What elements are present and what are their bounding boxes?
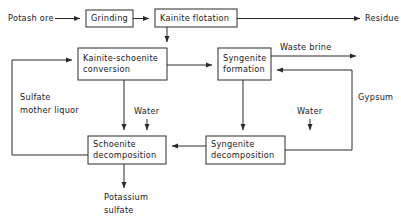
stream-label-sulfate_mother_liquor_1: Sulfate xyxy=(20,92,51,102)
stream-label-gypsum: Gypsum xyxy=(358,92,393,102)
process-flow-diagram: GrindingKainite flotationKainite-schoeni… xyxy=(0,0,401,224)
box-label-schoenite_decomposition: Schoenite xyxy=(93,139,136,149)
stream-labels-layer: Potash oreResidueWaste brineGypsumSulfat… xyxy=(8,13,399,215)
process-box-grinding[interactable]: Grinding xyxy=(86,10,133,27)
process-box-schoenite_decomposition[interactable]: Schoenitedecomposition xyxy=(88,136,166,164)
box-label-syngenite_decomposition: decomposition xyxy=(211,150,274,160)
box-label-schoenite_decomposition: decomposition xyxy=(93,150,156,160)
stream-label-sulfate_mother_liquor_2: mother liquor xyxy=(20,105,79,115)
box-label-kainite_schoenite_conversion: Kainite-schoenite xyxy=(83,53,158,63)
process-box-kainite_schoenite_conversion[interactable]: Kainite-schoeniteconversion xyxy=(78,48,167,80)
process-box-kainite_flotation[interactable]: Kainite flotation xyxy=(155,9,237,27)
nodes-layer: GrindingKainite flotationKainite-schoeni… xyxy=(78,9,285,164)
stream-label-residue: Residue xyxy=(365,13,399,23)
box-label-grinding: Grinding xyxy=(91,13,128,23)
box-label-kainite_schoenite_conversion: conversion xyxy=(83,64,130,74)
diagram-canvas: GrindingKainite flotationKainite-schoeni… xyxy=(0,0,401,224)
box-label-syngenite_decomposition: Syngenite xyxy=(211,139,254,149)
stream-label-waste_brine: Waste brine xyxy=(280,42,332,52)
box-label-kainite_flotation: Kainite flotation xyxy=(160,13,229,23)
box-label-syngenite_formation: Syngenite xyxy=(223,53,266,63)
box-label-syngenite_formation: formation xyxy=(223,64,265,74)
stream-label-potash_ore: Potash ore xyxy=(8,13,54,23)
stream-label-potassium_sulfate_2: sulfate xyxy=(104,205,134,215)
process-box-syngenite_formation[interactable]: Syngeniteformation xyxy=(218,48,271,80)
process-box-syngenite_decomposition[interactable]: Syngenitedecomposition xyxy=(206,136,285,164)
stream-label-water_left: Water xyxy=(134,106,160,116)
stream-label-potassium_sulfate_1: Potassium xyxy=(104,192,148,202)
stream-label-water_right: Water xyxy=(297,106,323,116)
